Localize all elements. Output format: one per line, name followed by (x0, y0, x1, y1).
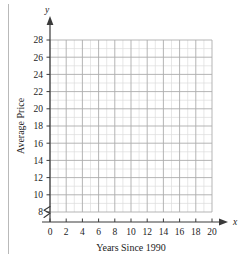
y-tick-label: 14 (34, 156, 44, 166)
y-axis-tick-labels: 28 26 24 22 20 18 16 14 12 10 8 (34, 35, 44, 217)
x-tick-label: 14 (159, 227, 169, 237)
x-tick-label: 8 (112, 227, 117, 237)
x-tick-label: 10 (126, 227, 136, 237)
x-tick-label: 18 (191, 227, 201, 237)
y-tick-label: 16 (34, 139, 44, 149)
x-tick-label: 6 (96, 227, 101, 237)
x-tick-label: 4 (80, 227, 85, 237)
y-axis-title: Average Price (15, 97, 26, 154)
x-tick-label: 0 (48, 227, 53, 237)
y-tick-label: 22 (34, 87, 44, 97)
y-tick-label: 10 (34, 190, 44, 200)
x-axis-title: Years Since 1990 (96, 242, 166, 253)
y-tick-label: 24 (34, 70, 44, 80)
x-tick-label: 12 (142, 227, 152, 237)
y-tick-label: 28 (34, 35, 44, 45)
y-axis-symbol: y (44, 5, 50, 15)
y-tick-label: 20 (34, 104, 44, 114)
y-tick-label: 26 (34, 53, 44, 63)
x-tick-label: 2 (64, 227, 69, 237)
x-tick-label: 16 (175, 227, 185, 237)
y-axis (47, 16, 54, 222)
x-axis-tick-labels: 0 2 4 6 8 10 12 14 16 18 20 (48, 227, 217, 237)
x-axis-symbol: x (232, 217, 238, 227)
x-axis (42, 219, 228, 226)
chart-figure: 28 26 24 22 20 18 16 14 12 10 8 0 2 4 6 … (0, 0, 243, 258)
coordinate-grid-plot: 28 26 24 22 20 18 16 14 12 10 8 0 2 4 6 … (0, 0, 243, 258)
x-tick-label: 20 (207, 227, 217, 237)
y-tick-label: 8 (38, 207, 43, 217)
y-tick-label: 12 (34, 173, 44, 183)
y-tick-label: 18 (34, 121, 44, 131)
